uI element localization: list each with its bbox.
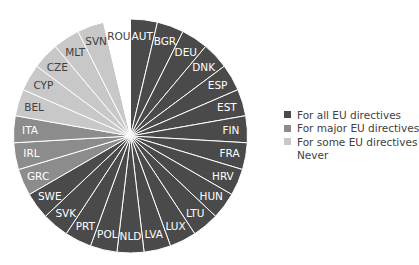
legend-swatch-all	[284, 111, 291, 118]
legend-label-never: Never	[297, 149, 328, 161]
legend-label-major: For major EU directives	[297, 122, 419, 134]
slice-label-esp: ESP	[208, 79, 228, 91]
slice-label-ita: ITA	[22, 124, 39, 136]
legend-item-never: Never	[284, 149, 419, 163]
slice-label-swe: SWE	[38, 190, 62, 202]
slice-label-dnk: DNK	[192, 61, 216, 73]
slice-label-cyp: CYP	[33, 79, 53, 91]
slice-label-fin: FIN	[222, 124, 239, 136]
slice-label-svk: SVK	[55, 207, 77, 219]
slice-label-bel: BEL	[24, 101, 44, 113]
slice-label-hrv: HRV	[212, 170, 235, 182]
legend-label-some: For some EU directives	[297, 136, 417, 148]
legend-label-all: For all EU directives	[297, 109, 401, 121]
slice-label-svn: SVN	[85, 35, 107, 47]
slice-label-rou: ROU	[107, 30, 130, 42]
slice-label-prt: PRT	[76, 220, 96, 232]
slice-label-deu: DEU	[175, 46, 197, 58]
slice-label-mlt: MLT	[65, 46, 85, 58]
legend-swatch-some	[284, 138, 291, 145]
legend: For all EU directives For major EU direc…	[284, 108, 419, 162]
legend-swatch-major	[284, 125, 291, 132]
slice-label-lva: LVA	[145, 228, 164, 240]
legend-item-all: For all EU directives	[284, 108, 419, 122]
slice-label-pol: POL	[97, 228, 118, 240]
slice-label-hun: HUN	[199, 190, 222, 202]
legend-item-some: For some EU directives	[284, 135, 419, 149]
pie-chart: AUTBGRDEUDNKESPESTFINFRAHRVHUNLTULUXLVAN…	[0, 0, 260, 265]
slice-label-irl: IRL	[23, 147, 39, 159]
slice-label-est: EST	[217, 101, 237, 113]
slice-label-nld: NLD	[120, 230, 142, 242]
slice-label-bgr: BGR	[154, 35, 176, 47]
slice-label-fra: FRA	[220, 147, 241, 159]
slice-label-grc: GRC	[27, 170, 49, 182]
slice-label-ltu: LTU	[186, 207, 205, 219]
slice-label-aut: AUT	[132, 30, 154, 42]
slice-label-lux: LUX	[166, 220, 186, 232]
slice-label-cze: CZE	[47, 61, 68, 73]
legend-item-major: For major EU directives	[284, 122, 419, 136]
legend-swatch-never	[284, 152, 291, 159]
